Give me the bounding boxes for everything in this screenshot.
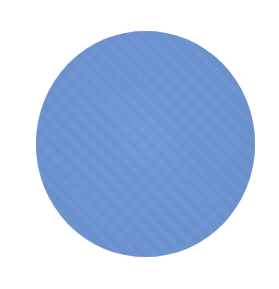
color-swatch-circle — [36, 31, 255, 257]
